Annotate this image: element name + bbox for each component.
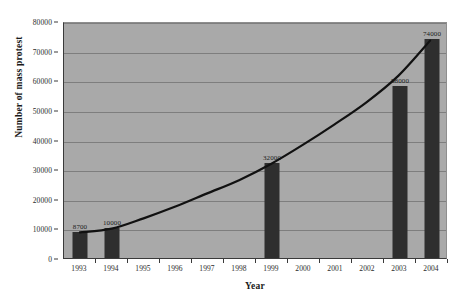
x-tick-label: 1994 (103, 264, 118, 273)
y-tick-mark (54, 22, 58, 23)
x-tick-label: 2003 (391, 264, 406, 273)
x-tick-label: 1996 (167, 264, 182, 273)
x-tick-mark (159, 259, 160, 263)
x-tick-label: 2002 (359, 264, 374, 273)
x-tick-mark (95, 259, 96, 263)
x-tick-mark (415, 259, 416, 263)
y-tick-mark (54, 170, 58, 171)
x-tick-mark (383, 259, 384, 263)
chart-screenshot: Number of mass protest 01000020000300004… (0, 0, 461, 307)
y-tick-mark (54, 199, 58, 200)
x-tick-label: 1998 (231, 264, 246, 273)
x-axis-title: Year (63, 281, 447, 291)
x-tick-mark (223, 259, 224, 263)
y-tick-mark (54, 110, 58, 111)
bar-value-label-1994: 10000 (103, 219, 121, 227)
gridline (64, 82, 446, 83)
y-tick-label: 10000 (33, 225, 52, 234)
y-tick-label: 60000 (33, 77, 52, 86)
x-tick-label: 1995 (135, 264, 150, 273)
gridline (64, 53, 446, 54)
y-tick-label: 80000 (33, 18, 52, 27)
bar-2003 (393, 86, 408, 258)
gridline (64, 112, 446, 113)
y-tick-mark (54, 140, 58, 141)
gridline (64, 171, 446, 172)
y-tick-mark (54, 81, 58, 82)
x-tick-label: 2004 (423, 264, 438, 273)
plot-area: 870010000320005800074000 (63, 22, 447, 259)
x-tick-mark (447, 259, 448, 263)
bar-1993 (73, 232, 88, 258)
gridline (64, 142, 446, 143)
bar-value-label-1993: 8700 (73, 223, 87, 231)
y-tick-label: 70000 (33, 47, 52, 56)
bar-1994 (105, 228, 120, 258)
x-tick-mark (287, 259, 288, 263)
x-tick-mark (319, 259, 320, 263)
y-tick-label: 30000 (33, 166, 52, 175)
x-tick-mark (351, 259, 352, 263)
y-tick-mark (54, 51, 58, 52)
y-tick-mark (54, 259, 58, 260)
gridlines (64, 23, 446, 258)
y-tick-label: 50000 (33, 106, 52, 115)
gridline (64, 23, 446, 24)
x-tick-mark (255, 259, 256, 263)
bar-2004 (425, 39, 440, 258)
y-tick-label: 0 (48, 255, 52, 264)
gridline (64, 201, 446, 202)
x-tick-label: 1993 (71, 264, 86, 273)
bar-value-label-2004: 74000 (423, 30, 441, 38)
bar-value-label-1999: 32000 (263, 154, 281, 162)
bar-1999 (265, 163, 280, 258)
y-axis: 0100002000030000400005000060000700008000… (0, 22, 58, 259)
y-tick-label: 40000 (33, 136, 52, 145)
y-tick-label: 20000 (33, 195, 52, 204)
x-tick-mark (191, 259, 192, 263)
x-tick-label: 1999 (263, 264, 278, 273)
x-tick-mark (127, 259, 128, 263)
bar-value-label-2003: 58000 (391, 77, 409, 85)
y-tick-mark (54, 229, 58, 230)
x-axis: 1993199419951996199719981999200020012002… (63, 262, 447, 278)
x-tick-label: 2001 (327, 264, 342, 273)
x-tick-label: 1997 (199, 264, 214, 273)
x-tick-label: 2000 (295, 264, 310, 273)
gridline (64, 230, 446, 231)
